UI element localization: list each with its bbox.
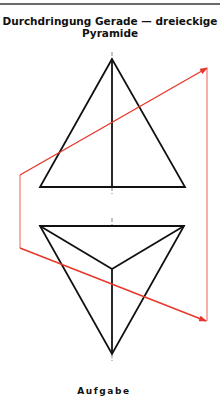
line-front-view <box>20 68 207 175</box>
line-top-view <box>20 248 206 321</box>
pyramid-line-intersection-drawing <box>0 0 220 404</box>
intersecting-line <box>20 68 207 321</box>
caption-label: Aufgabe <box>0 386 220 396</box>
pyramid-top-view <box>40 226 184 354</box>
pyramid-front-view <box>40 59 185 187</box>
